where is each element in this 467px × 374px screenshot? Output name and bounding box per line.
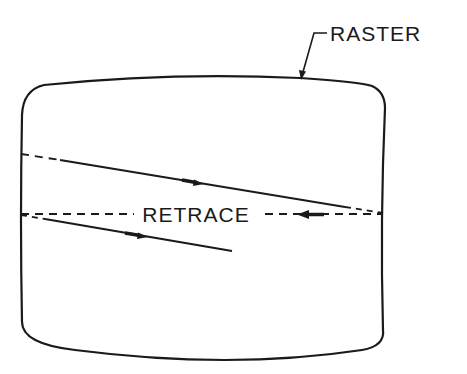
crt-raster-diagram: RETRACE RASTER	[0, 0, 467, 374]
raster-leader	[299, 33, 327, 80]
arrow-right-icon	[182, 180, 204, 187]
retrace-label: RETRACE	[142, 203, 249, 226]
arrow-right-icon	[125, 233, 148, 240]
raster-label: RASTER	[330, 22, 421, 45]
arrow-left-icon	[297, 210, 324, 219]
